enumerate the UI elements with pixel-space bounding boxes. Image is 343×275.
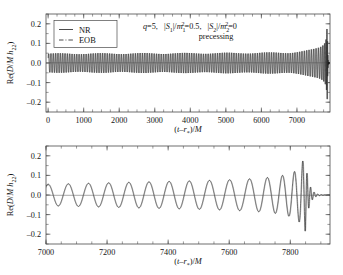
x-tick-label: 4000 — [182, 116, 198, 125]
x-tick-label: 2000 — [111, 116, 127, 125]
x-tick-label: 7000 — [38, 248, 54, 257]
y-tick-label: 0.1 — [31, 39, 41, 48]
x-tick-label: 7800 — [282, 248, 298, 257]
y-tick-label: 0.0 — [31, 59, 41, 68]
y-tick-label: –0.2 — [26, 98, 41, 107]
legend-label-nr: NR — [79, 26, 91, 35]
waveform-legend: NR EOB — [54, 21, 117, 48]
x-tick-label: 7000 — [289, 116, 305, 125]
x-tick-label: 6000 — [253, 116, 269, 125]
y-tick-label: –0.1 — [26, 211, 41, 220]
y-tick-label: –0.1 — [26, 79, 41, 88]
y-tick-label: 0.0 — [31, 191, 41, 200]
y-tick-label: 0.1 — [31, 171, 41, 180]
x-tick-label: 1000 — [75, 116, 91, 125]
figure-background — [0, 0, 343, 275]
x-tick-label: 7400 — [160, 248, 176, 257]
y-tick-label: 0.2 — [31, 20, 41, 29]
waveform-figure: 01000200030004000500060007000–0.2–0.10.0… — [0, 0, 343, 275]
x-tick-label: 7200 — [99, 248, 115, 257]
x-tick-label: 3000 — [147, 116, 163, 125]
legend-label-eob: EOB — [79, 36, 96, 45]
x-tick-label: 0 — [46, 116, 50, 125]
x-tick-label: 7600 — [221, 248, 237, 257]
y-tick-label: 0.2 — [31, 152, 41, 161]
parameter-annotation-line2: precessing — [199, 32, 234, 41]
x-tick-label: 5000 — [218, 116, 234, 125]
y-tick-label: –0.2 — [26, 230, 41, 239]
